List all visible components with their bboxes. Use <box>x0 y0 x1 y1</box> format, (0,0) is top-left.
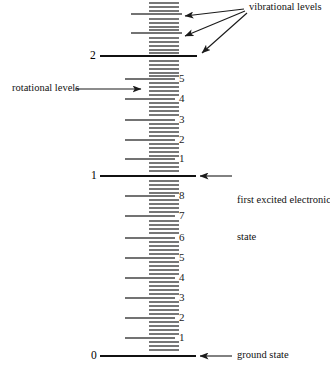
vibrational-label-u1: 1 <box>179 152 185 164</box>
annotation-first-excited-line1: first excited electronic <box>237 194 330 206</box>
annotation-first-excited-line2: state <box>237 231 330 243</box>
vibrational-label-l8: 8 <box>179 189 185 201</box>
electronic-state-label-2: 2 <box>90 49 96 62</box>
energy-level-diagram: 2 1 0 5 4 3 2 1 8 7 6 5 4 3 2 1 vibratio… <box>0 0 330 368</box>
vibrational-label-l6: 6 <box>179 231 185 243</box>
annotation-ground-state: ground state <box>237 349 289 361</box>
vibrational-label-l5: 5 <box>179 251 185 263</box>
vibrational-label-l4: 4 <box>179 271 185 283</box>
annotation-vibrational-levels: vibrational levels <box>249 1 322 13</box>
vibrational-label-l1: 1 <box>179 331 185 343</box>
electronic-state-label-0: 0 <box>91 349 97 362</box>
annotation-first-excited-electronic-state: first excited electronic state <box>237 169 330 268</box>
vibrational-label-u3: 3 <box>179 113 185 125</box>
vibrational-label-u2: 2 <box>179 133 185 145</box>
vibrational-label-l2: 2 <box>179 311 185 323</box>
vibrational-label-l7: 7 <box>179 209 185 221</box>
vibrational-label-u5: 5 <box>179 72 185 84</box>
annotation-rotational-levels: rotational levels <box>12 82 79 94</box>
electronic-state-label-1: 1 <box>91 169 97 182</box>
vibrational-label-u4: 4 <box>179 92 185 104</box>
vibrational-label-l3: 3 <box>179 291 185 303</box>
